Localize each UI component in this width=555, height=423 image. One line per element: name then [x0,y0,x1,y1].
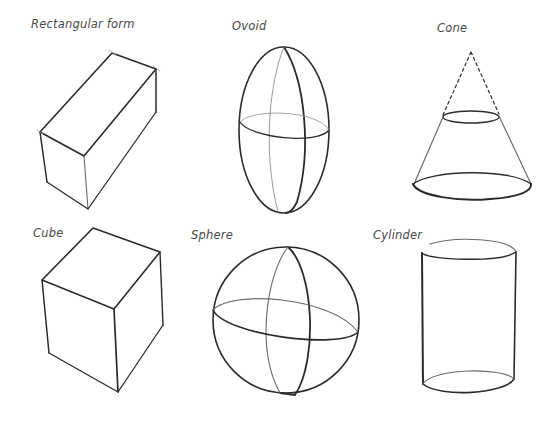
basic-forms-drawing: Rectangular form Ovoid Cone Cube Sphere … [0,0,555,423]
shapes-svg [0,0,555,423]
sphere-drawing [213,247,359,395]
ovoid-drawing [239,47,329,213]
cylinder-drawing [422,239,516,392]
cone-drawing [413,52,531,200]
rectangular-form-drawing [37,50,160,209]
cube-drawing [42,228,163,392]
